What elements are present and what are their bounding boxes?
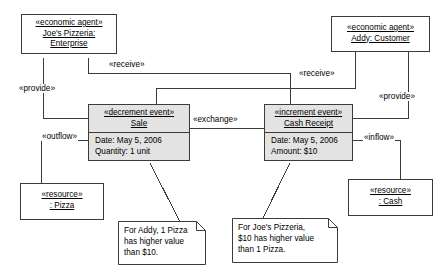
edge-label-provide-left: «provide» <box>18 84 56 93</box>
note-addy-valuation[interactable]: For Addy, 1 Pizza has higher value than … <box>118 221 206 265</box>
note-text: For Joe's Pizzeria, $10 has higher value… <box>232 218 338 258</box>
edge-label-provide-right: «provide» <box>378 92 416 101</box>
node-pizza-resource[interactable]: «resource» : Pizza <box>20 183 104 220</box>
node-sale-event[interactable]: «decrement event» Sale Date: May 5, 2006… <box>88 104 190 161</box>
node-header: «decrement event» Sale <box>89 105 189 133</box>
node-header: «resource» : Cash <box>349 180 432 215</box>
attribute-quantity: Quantity: 1 unit <box>95 147 184 158</box>
node-attributes: Date: May 5, 2006 Quantity: 1 unit <box>89 133 189 160</box>
node-header: «economic agent» Joe's Pizzeria: Enterpr… <box>22 15 116 53</box>
stereotype-label: «increment event» <box>269 108 348 119</box>
edge-label-outflow: «outflow» <box>41 132 78 141</box>
note-joes-valuation[interactable]: For Joe's Pizzeria, $10 has higher value… <box>232 218 338 263</box>
note-text: For Addy, 1 Pizza has higher value than … <box>118 221 206 261</box>
attribute-date: Date: May 5, 2006 <box>271 136 347 147</box>
note-line-3: than $10. <box>124 247 201 258</box>
note-line-2: $10 has higher value <box>238 233 333 244</box>
node-cash-resource[interactable]: «resource» : Cash <box>348 179 433 216</box>
stereotype-label: «economic agent» <box>336 23 425 34</box>
edge-inflow <box>353 140 400 179</box>
rea-diagram-canvas: «economic agent» Joe's Pizzeria: Enterpr… <box>0 0 442 280</box>
node-name-line2: Enterprise <box>26 39 112 50</box>
node-attributes: Date: May 5, 2006 Amount: $10 <box>265 133 352 160</box>
edge-label-exchange: «exchange» <box>192 115 239 124</box>
stereotype-label: «resource» <box>353 186 428 197</box>
node-name-line1: Addy: Customer <box>336 34 425 45</box>
note-leader-joes <box>263 163 290 218</box>
node-header: «resource» : Pizza <box>21 184 103 219</box>
edge-outflow <box>41 140 88 183</box>
note-leader-addy <box>150 163 180 222</box>
node-name-line1: : Cash <box>353 197 428 208</box>
note-line-2: has higher value <box>124 236 201 247</box>
node-cash-receipt-event[interactable]: «increment event» Cash Receipt Date: May… <box>264 104 353 161</box>
attribute-amount: Amount: $10 <box>271 147 347 158</box>
edge-label-receive-left: «receive» <box>108 60 146 69</box>
stereotype-label: «decrement event» <box>93 108 185 119</box>
node-name-line1: Cash Receipt <box>269 119 348 130</box>
node-name-line1: Sale <box>93 119 185 130</box>
node-joes-pizzeria[interactable]: «economic agent» Joe's Pizzeria: Enterpr… <box>21 14 117 54</box>
node-name-line1: Joe's Pizzeria: <box>26 29 112 40</box>
stereotype-label: «economic agent» <box>26 18 112 29</box>
note-line-3: than 1 Pizza. <box>238 244 333 255</box>
node-name-line1: : Pizza <box>25 201 99 212</box>
node-header: «increment event» Cash Receipt <box>265 105 352 133</box>
stereotype-label: «resource» <box>25 190 99 201</box>
node-addy-customer[interactable]: «economic agent» Addy: Customer <box>331 16 430 52</box>
node-header: «economic agent» Addy: Customer <box>332 17 429 51</box>
edge-label-inflow: «inflow» <box>363 133 395 142</box>
attribute-date: Date: May 5, 2006 <box>95 136 184 147</box>
note-line-1: For Joe's Pizzeria, <box>238 222 333 233</box>
note-line-1: For Addy, 1 Pizza <box>124 225 201 236</box>
edge-label-receive-right: «receive» <box>298 69 336 78</box>
edge-provide-right <box>353 50 408 118</box>
